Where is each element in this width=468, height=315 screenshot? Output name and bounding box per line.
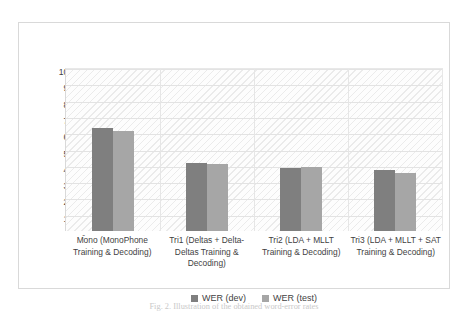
plot-wrapper xyxy=(65,68,443,231)
legend-swatch-icon xyxy=(262,295,269,302)
x-axis-category-labels: Mono (MonoPhone Training & Decoding)Tri1… xyxy=(65,235,443,291)
chart-frame: 100.0090.0080.0070.0060.0050.0040.0030.0… xyxy=(18,22,450,289)
bar-test[interactable] xyxy=(301,167,322,231)
bar-dev[interactable] xyxy=(92,128,113,231)
bar-group xyxy=(348,69,442,231)
bar-test[interactable] xyxy=(395,173,416,231)
bar-dev[interactable] xyxy=(280,168,301,231)
category-label: Tri3 (LDA + MLLT + SAT Training & Decodi… xyxy=(349,235,444,291)
bar-dev[interactable] xyxy=(374,170,395,231)
category-label: Tri2 (LDA + MLLT Training & Decoding) xyxy=(254,235,349,291)
bar-test[interactable] xyxy=(207,164,228,231)
bar-dev[interactable] xyxy=(186,163,207,231)
bar-group xyxy=(254,69,348,231)
bar-test[interactable] xyxy=(113,131,134,231)
figure-caption: Fig. 2. Illustration of the obtained wor… xyxy=(0,302,468,315)
category-label: Mono (MonoPhone Training & Decoding) xyxy=(65,235,160,291)
legend-swatch-icon xyxy=(191,295,198,302)
chart-screenshot: 100.0090.0080.0070.0060.0050.0040.0030.0… xyxy=(0,0,468,315)
bar-groups xyxy=(66,69,442,231)
bar-group xyxy=(66,69,160,231)
plot-area xyxy=(65,68,443,231)
bar-group xyxy=(160,69,254,231)
category-label: Tri1 (Deltas + Delta-Deltas Training & D… xyxy=(160,235,255,291)
